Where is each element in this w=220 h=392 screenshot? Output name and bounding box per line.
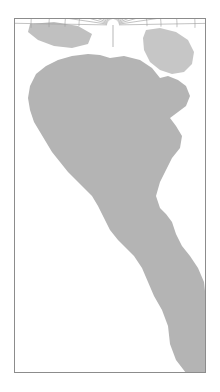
- tissot-indicatrix-figure: [0, 0, 220, 392]
- map-content: [0, 0, 220, 373]
- map-canvas: [0, 0, 220, 392]
